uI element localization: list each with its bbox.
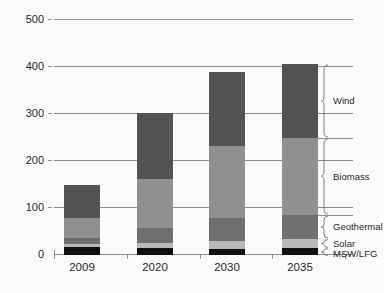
gridline-500 (54, 19, 353, 20)
bar-2009[interactable] (64, 185, 100, 255)
legend-label-wind: Wind (333, 96, 355, 106)
bar-2035-segment-solar (282, 239, 318, 248)
legend-label-biomass: Biomass (333, 172, 369, 182)
bar-2030-segment-geothermal (209, 218, 245, 241)
legend-label-geothermal: Geothermal (333, 222, 383, 232)
legend-brace-biomass (321, 138, 330, 215)
legend-brace-mswlfg (321, 248, 330, 256)
bar-2030-segment-wind (209, 72, 245, 146)
xtick-1 (127, 255, 128, 259)
ytick-label-400: 400 (10, 61, 44, 72)
bar-2020-segment-wind (137, 113, 173, 179)
bar-2020-segment-geothermal (137, 228, 173, 243)
bar-2020-segment-mswlfg (137, 248, 173, 255)
legend-leader-biomass-base (318, 215, 353, 216)
xlabel-2035: 2035 (275, 261, 325, 273)
bar-2035-segment-wind (282, 64, 318, 138)
bar-2009-segment-wind (64, 185, 100, 218)
bar-2035-segment-mswlfg (282, 248, 318, 255)
ytick-mark-400 (48, 66, 52, 67)
ytick-label-0: 0 (10, 249, 44, 260)
ytick-label-100: 100 (10, 202, 44, 213)
legend-label-mswlfg: MSW/LFG (333, 249, 377, 259)
ytick-mark-200 (48, 160, 52, 161)
stacked-bar-chart: 500 400 300 200 100 0 (0, 0, 384, 293)
xlabel-2030: 2030 (202, 261, 252, 273)
ytick-label-500: 500 (10, 14, 44, 25)
legend-leader-wind-base (318, 138, 353, 139)
xtick-0 (54, 255, 55, 259)
bar-2009-segment-mswlfg (64, 247, 100, 255)
xtick-2 (200, 255, 201, 259)
legend-brace-geothermal (321, 215, 330, 239)
bar-2030-segment-biomass (209, 146, 245, 218)
bar-2030-segment-solar (209, 241, 245, 249)
ytick-mark-100 (48, 207, 52, 208)
bar-2035-segment-geothermal (282, 215, 318, 239)
legend-leader-top (318, 66, 353, 67)
bar-2030[interactable] (209, 72, 245, 255)
bar-2020[interactable] (137, 113, 173, 255)
bar-2035[interactable] (282, 64, 318, 255)
bar-2030-segment-mswlfg (209, 249, 245, 255)
xlabel-2009: 2009 (57, 261, 107, 273)
bar-2020-segment-biomass (137, 179, 173, 228)
legend-brace-solar (321, 239, 330, 248)
bar-2009-segment-biomass (64, 218, 100, 238)
bar-2035-segment-biomass (282, 138, 318, 215)
ytick-mark-500 (48, 19, 52, 20)
ytick-label-300: 300 (10, 108, 44, 119)
legend-brace-wind (321, 64, 330, 138)
ytick-label-200: 200 (10, 155, 44, 166)
xtick-3 (272, 255, 273, 259)
xlabel-2020: 2020 (130, 261, 180, 273)
ytick-mark-300 (48, 113, 52, 114)
